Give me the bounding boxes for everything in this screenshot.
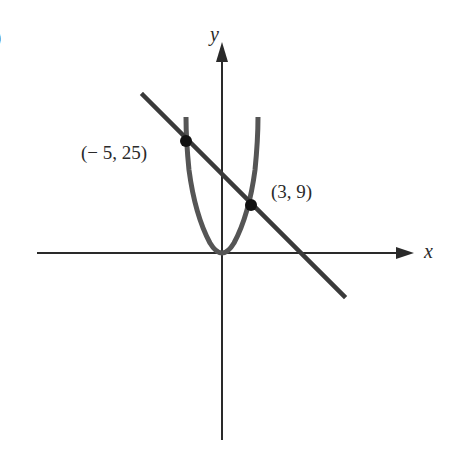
x-axis-label: x bbox=[424, 241, 433, 261]
intersection-point-right bbox=[245, 199, 257, 211]
line-curve bbox=[143, 95, 344, 296]
y-axis-label: y bbox=[210, 24, 219, 44]
graph-canvas bbox=[0, 0, 455, 454]
x-axis-arrow-icon bbox=[396, 247, 414, 259]
point-label-right: (3, 9) bbox=[271, 182, 312, 201]
y-axis bbox=[216, 42, 228, 440]
point-label-left: (− 5, 25) bbox=[81, 143, 147, 162]
y-axis-arrow-icon bbox=[216, 42, 228, 62]
intersection-point-left bbox=[180, 135, 192, 147]
